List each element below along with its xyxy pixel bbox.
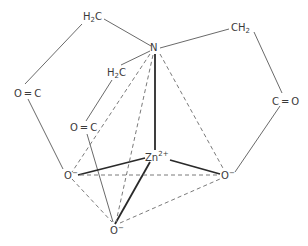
label-o-left: O−: [64, 169, 78, 181]
bond-co-middle-to-o-bottom: [87, 134, 113, 222]
bond-co-left-to-o-left: [28, 99, 63, 169]
bond-zn-to-o-bottom: [115, 162, 150, 224]
zn-chelate-diagram: N H2C CH2 H2C O = C O = C C = O Zn2+ O− …: [0, 0, 308, 246]
label-co-left: O = C: [14, 88, 41, 99]
tetrahedron-edges: [72, 54, 224, 223]
bond-n-to-ch2-inner: [121, 51, 150, 65]
bond-n-to-ch2-top-right: [160, 29, 229, 48]
label-o-bottom: O−: [110, 224, 124, 236]
label-co-middle: O = C: [70, 122, 97, 133]
bond-ch2-inner-to-co-middle: [86, 80, 112, 121]
edge-o-bottom-to-o-right: [120, 179, 220, 223]
label-n: N: [150, 42, 157, 53]
edge-o-left-to-o-bottom: [72, 179, 112, 222]
coordinate-bonds: [78, 54, 220, 224]
bond-ch2-top-right-to-co-right: [254, 32, 282, 93]
label-ch2-top-left: H2C: [83, 11, 102, 24]
edge-n-to-o-right: [160, 54, 224, 170]
bond-ch2-top-left-to-co-left: [25, 24, 82, 84]
label-o-right: O−: [221, 169, 235, 181]
bond-zn-to-o-left: [78, 158, 145, 175]
bond-zn-to-o-right: [170, 160, 220, 174]
label-zn: Zn2+: [145, 150, 169, 163]
edge-n-to-o-bottom: [116, 55, 153, 222]
label-ch2-top-right: CH2: [231, 22, 250, 35]
bond-ch2-top-left-to-n: [104, 19, 151, 46]
label-ch2-inner: H2C: [107, 67, 126, 80]
bond-co-right-to-o-right: [235, 106, 280, 172]
label-co-right: C = O: [272, 96, 299, 107]
atom-labels: N H2C CH2 H2C O = C O = C C = O Zn2+ O− …: [14, 11, 299, 236]
